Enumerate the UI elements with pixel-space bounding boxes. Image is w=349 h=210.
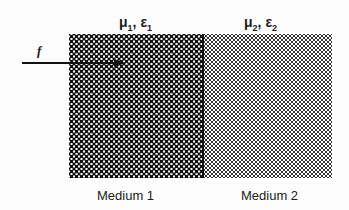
interface-boundary [202,34,204,178]
diagram: μ1, ε1 μ2, ε2 f Medium 1 Medium 2 [0,0,349,210]
medium-1-region [69,34,203,178]
medium-2-label: Medium 2 [241,188,298,203]
medium-2-region [204,34,332,178]
medium-1-label: Medium 1 [97,188,154,203]
medium-2-params: μ2, ε2 [244,14,277,33]
incident-wave-label: f [37,43,41,59]
medium-1-params: μ1, ε1 [119,14,152,33]
incident-arrow-icon [22,58,132,68]
